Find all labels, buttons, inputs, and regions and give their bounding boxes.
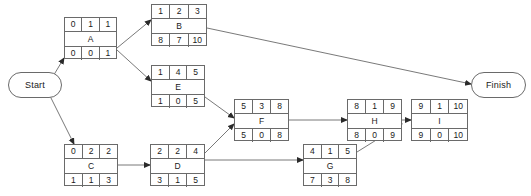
- terminal-node-label: Finish: [486, 80, 511, 90]
- activity-node-bottom-cell: 10: [449, 129, 467, 142]
- activity-node-top-row: 022: [65, 145, 117, 159]
- activity-node-top-cell: 1: [366, 100, 384, 113]
- activity-node-bottom-cell: 0: [431, 129, 450, 142]
- activity-node-label: I: [412, 114, 467, 128]
- activity-node-bottom-cell: 7: [304, 174, 322, 187]
- activity-node-bottom-cell: 9: [412, 129, 431, 142]
- activity-node-top-cell: 1: [82, 18, 99, 31]
- activity-node-top-cell: 4: [187, 145, 204, 158]
- activity-node-bottom-row: 001: [65, 46, 116, 60]
- activity-node-bottom-cell: 8: [152, 34, 170, 47]
- activity-node-top-cell: 10: [449, 100, 467, 113]
- activity-node-top-cell: 0: [65, 145, 83, 158]
- activity-node-bottom-cell: 1: [83, 174, 101, 187]
- activity-node-bottom-cell: 0: [170, 95, 188, 108]
- activity-node-bottom-cell: 0: [82, 47, 99, 60]
- project-network-diagram: StartFinish 011A001123B8710145E105022C11…: [0, 0, 531, 196]
- activity-node-top-row: 011: [65, 18, 116, 32]
- edge-D-to-F: [205, 124, 234, 153]
- activity-node-top-cell: 2: [83, 145, 101, 158]
- activity-node-top-cell: 3: [189, 5, 206, 18]
- activity-node-bottom-cell: 1: [169, 174, 187, 187]
- activity-node-bottom-row: 9010: [412, 128, 467, 142]
- activity-node-label: A: [65, 32, 116, 46]
- activity-node-bottom-cell: 0: [253, 129, 271, 142]
- activity-node-H: 819H809: [347, 99, 402, 141]
- activity-node-top-cell: 9: [412, 100, 431, 113]
- activity-node-bottom-cell: 3: [322, 174, 340, 187]
- activity-node-label: H: [348, 114, 401, 128]
- activity-node-bottom-cell: 5: [187, 95, 204, 108]
- activity-node-top-row: 9110: [412, 100, 467, 114]
- activity-node-bottom-row: 508: [235, 128, 288, 142]
- activity-node-top-row: 145: [152, 66, 204, 80]
- edge-start-to-C: [50, 96, 74, 144]
- activity-node-bottom-cell: 1: [152, 95, 170, 108]
- activity-node-top-cell: 8: [271, 100, 288, 113]
- activity-node-D: 224D315: [150, 144, 205, 186]
- activity-node-top-cell: 4: [304, 145, 322, 158]
- activity-node-bottom-cell: 7: [170, 34, 188, 47]
- activity-node-bottom-row: 113: [65, 173, 117, 187]
- activity-node-F: 538F508: [234, 99, 289, 141]
- activity-node-bottom-cell: 1: [65, 174, 83, 187]
- activity-node-label: E: [152, 80, 204, 94]
- activity-node-label: F: [235, 114, 288, 128]
- activity-node-label: B: [152, 19, 206, 33]
- activity-node-top-cell: 4: [170, 66, 188, 79]
- activity-node-top-row: 538: [235, 100, 288, 114]
- activity-node-top-cell: 2: [169, 145, 187, 158]
- activity-node-top-row: 819: [348, 100, 401, 114]
- terminal-node-finish: Finish: [471, 72, 526, 98]
- activity-node-bottom-row: 738: [304, 173, 356, 187]
- activity-node-C: 022C113: [64, 144, 118, 186]
- activity-node-top-cell: 0: [65, 18, 82, 31]
- activity-node-top-cell: 1: [152, 66, 170, 79]
- activity-node-bottom-cell: 8: [339, 174, 356, 187]
- activity-node-top-cell: 1: [100, 18, 116, 31]
- activity-node-top-cell: 2: [151, 145, 169, 158]
- activity-node-bottom-cell: 0: [366, 129, 384, 142]
- activity-node-top-cell: 2: [170, 5, 188, 18]
- edge-A-to-B: [117, 20, 151, 48]
- terminal-node-label: Start: [25, 80, 45, 90]
- activity-node-top-cell: 1: [431, 100, 450, 113]
- activity-node-label: D: [151, 159, 204, 173]
- activity-node-bottom-cell: 5: [235, 129, 253, 142]
- activity-node-B: 123B8710: [151, 4, 207, 46]
- activity-node-A: 011A001: [64, 17, 117, 59]
- edge-B-to-Finish: [207, 28, 471, 84]
- activity-node-top-cell: 3: [253, 100, 271, 113]
- activity-node-bottom-cell: 10: [189, 34, 206, 47]
- activity-node-top-cell: 5: [187, 66, 204, 79]
- activity-node-I: 9110I9010: [411, 99, 468, 141]
- activity-node-bottom-row: 809: [348, 128, 401, 142]
- activity-node-top-row: 224: [151, 145, 204, 159]
- activity-node-label: G: [304, 159, 356, 173]
- activity-node-label: C: [65, 159, 117, 173]
- activity-node-top-cell: 9: [384, 100, 401, 113]
- activity-node-G: 415G738: [303, 144, 357, 186]
- activity-node-bottom-cell: 8: [271, 129, 288, 142]
- activity-node-top-cell: 8: [348, 100, 366, 113]
- activity-node-bottom-row: 8710: [152, 33, 206, 47]
- activity-node-bottom-cell: 8: [348, 129, 366, 142]
- activity-node-top-cell: 5: [235, 100, 253, 113]
- activity-node-bottom-cell: 1: [100, 47, 116, 60]
- activity-node-bottom-cell: 3: [100, 174, 117, 187]
- activity-node-top-cell: 2: [100, 145, 117, 158]
- activity-node-bottom-row: 105: [152, 94, 204, 108]
- activity-node-E: 145E105: [151, 65, 205, 107]
- activity-node-top-cell: 1: [322, 145, 340, 158]
- activity-node-bottom-cell: 5: [187, 174, 204, 187]
- terminal-node-start: Start: [8, 72, 62, 98]
- activity-node-top-row: 123: [152, 5, 206, 19]
- activity-node-top-cell: 5: [339, 145, 356, 158]
- edge-E-to-F: [205, 97, 234, 118]
- activity-node-bottom-row: 315: [151, 173, 204, 187]
- edge-A-to-E: [117, 50, 151, 81]
- activity-node-top-row: 415: [304, 145, 356, 159]
- activity-node-bottom-cell: 3: [151, 174, 169, 187]
- activity-node-bottom-cell: 0: [65, 47, 82, 60]
- activity-node-bottom-cell: 9: [384, 129, 401, 142]
